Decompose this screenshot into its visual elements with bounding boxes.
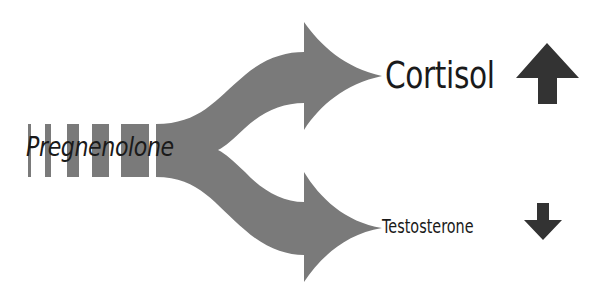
split-flow-arrow xyxy=(156,22,382,282)
product-label-cortisol: Cortisol xyxy=(385,56,495,94)
product-label-testosterone: Testosterone xyxy=(382,216,474,236)
source-label-pregnenolone: Pregnenolone xyxy=(26,133,174,160)
arrow-up-icon xyxy=(516,43,579,104)
arrow-down-icon xyxy=(524,203,562,240)
